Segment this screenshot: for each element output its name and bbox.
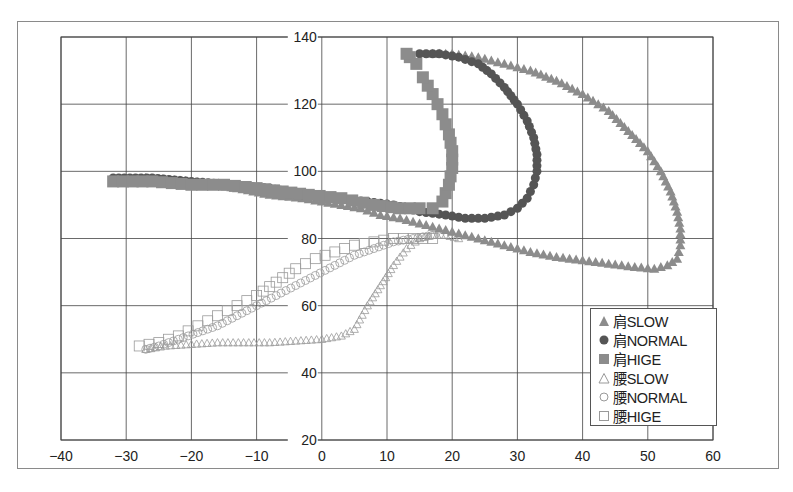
legend-label: 腰HIGE — [613, 405, 661, 426]
legend: 肩SLOW 肩NORMAL 肩HIGE 腰SLOW 腰NORMAL 腰HIGE — [590, 308, 717, 426]
svg-text:50: 50 — [640, 448, 656, 464]
svg-text:10: 10 — [379, 448, 395, 464]
legend-item-shoulder-normal: 肩NORMAL — [597, 330, 716, 349]
legend-item-waist-normal: 腰NORMAL — [597, 387, 716, 406]
square-filled-icon — [597, 352, 611, 366]
svg-text:140: 140 — [293, 29, 317, 45]
legend-item-waist-slow: 腰SLOW — [597, 368, 716, 387]
svg-text:100: 100 — [293, 163, 317, 179]
legend-label: 肩HIGE — [613, 348, 661, 369]
svg-text:40: 40 — [301, 365, 317, 381]
legend-label: 腰NORMAL — [613, 386, 687, 407]
svg-text:30: 30 — [510, 448, 526, 464]
triangle-filled-icon — [597, 314, 611, 328]
svg-text:120: 120 — [293, 96, 317, 112]
svg-text:60: 60 — [705, 448, 721, 464]
svg-text:−10: −10 — [245, 448, 269, 464]
legend-item-shoulder-hige: 肩HIGE — [597, 349, 716, 368]
svg-text:−30: −30 — [114, 448, 138, 464]
svg-text:20: 20 — [444, 448, 460, 464]
square-open-icon — [597, 409, 611, 423]
svg-text:80: 80 — [301, 231, 317, 247]
legend-label: 肩NORMAL — [613, 329, 687, 350]
circle-open-icon — [597, 390, 611, 404]
legend-item-shoulder-slow: 肩SLOW — [597, 311, 716, 330]
circle-filled-icon — [597, 333, 611, 347]
svg-text:−40: −40 — [49, 448, 73, 464]
svg-text:40: 40 — [575, 448, 591, 464]
legend-item-waist-hige: 腰HIGE — [597, 406, 716, 425]
triangle-open-icon — [597, 371, 611, 385]
legend-label: 腰SLOW — [613, 367, 668, 388]
svg-text:20: 20 — [301, 432, 317, 448]
legend-label: 肩SLOW — [613, 310, 668, 331]
svg-text:0: 0 — [318, 448, 326, 464]
svg-text:60: 60 — [301, 298, 317, 314]
svg-text:−20: −20 — [180, 448, 204, 464]
